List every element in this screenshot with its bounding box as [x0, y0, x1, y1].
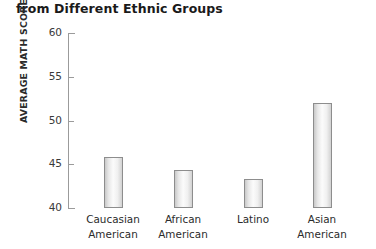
y-tick-50: 50	[68, 121, 74, 122]
y-tick-label: 50	[49, 114, 62, 127]
y-tick-mark	[68, 33, 74, 34]
category-label-asian-american: AsianAmerican	[272, 212, 372, 241]
y-tick-45: 45	[68, 164, 74, 165]
y-tick-mark	[68, 77, 74, 78]
y-axis-title: AVERAGE MATH SCORES	[18, 0, 29, 128]
y-tick-55: 55	[68, 77, 74, 78]
y-tick-60: 60	[68, 33, 74, 34]
bar-latino	[244, 179, 263, 208]
bar-chart-figure: from Different Ethnic Groups AVERAGE MAT…	[0, 0, 376, 249]
y-tick-label: 40	[49, 201, 62, 214]
category-label-line: American	[272, 227, 372, 242]
y-tick-label: 55	[49, 70, 62, 83]
chart-title: from Different Ethnic Groups	[16, 1, 223, 16]
category-label-line: Asian	[272, 212, 372, 227]
y-tick-mark	[68, 164, 74, 165]
bar-african-american	[174, 170, 193, 208]
category-label-line: American	[133, 227, 233, 242]
y-tick-mark	[68, 121, 74, 122]
y-tick-40: 40	[68, 208, 74, 209]
y-tick-label: 60	[49, 26, 62, 39]
bar-caucasian-american	[104, 157, 123, 208]
bar-asian-american	[313, 103, 332, 208]
y-tick-mark	[68, 208, 74, 209]
y-tick-label: 45	[49, 157, 62, 170]
